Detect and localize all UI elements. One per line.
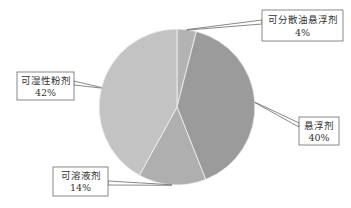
slice-percent-label: 40% (308, 132, 329, 143)
data-label-3: 可湿性粉剂 42% (17, 72, 74, 100)
slice-name-label: 悬浮剂 (304, 120, 334, 131)
pie-chart: 可分散油悬浮剂 4% 悬浮剂 40% 可溶液剂 14% 可湿性粉剂 42% (0, 0, 351, 208)
leader-line-3 (74, 81, 102, 88)
slice-percent-label: 4% (295, 27, 310, 38)
data-label-2: 可溶液剂 14% (53, 167, 108, 196)
slice-percent-label: 42% (35, 87, 56, 98)
slice-name-label: 可分散油悬浮剂 (268, 14, 338, 25)
pie-slices (99, 29, 255, 185)
leader-line-0 (187, 20, 262, 30)
slice-name-label: 可溶液剂 (61, 170, 101, 181)
data-label-0: 可分散油悬浮剂 4% (262, 10, 343, 41)
leader-line-1 (255, 102, 299, 127)
slice-name-label: 可湿性粉剂 (21, 75, 71, 86)
slice-percent-label: 14% (70, 182, 91, 193)
data-label-1: 悬浮剂 40% (299, 117, 339, 145)
